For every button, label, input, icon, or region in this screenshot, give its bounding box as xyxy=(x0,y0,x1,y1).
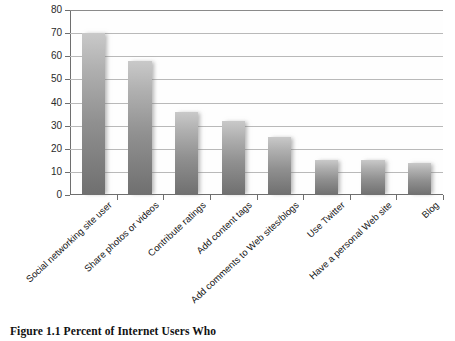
y-axis-tick-label: 10 xyxy=(51,167,62,177)
bar xyxy=(315,160,338,195)
y-axis-tick-label: 80 xyxy=(51,5,62,15)
bar xyxy=(82,33,105,195)
bar xyxy=(128,61,151,195)
bar xyxy=(268,137,291,195)
x-axis-labels: Social networking site userShare photos … xyxy=(70,196,443,306)
bar xyxy=(222,121,245,195)
y-axis-tick-label: 60 xyxy=(51,51,62,61)
bar xyxy=(408,163,431,195)
y-axis-tick-label: 20 xyxy=(51,144,62,154)
bar xyxy=(175,112,198,195)
x-axis-label: Have a personal Web site xyxy=(308,200,395,282)
bar-chart: 80706050403020100 xyxy=(70,10,443,195)
x-axis-label: Blog xyxy=(420,200,441,221)
y-axis-tick-label: 0 xyxy=(56,190,62,200)
figure-container: 80706050403020100 Social networking site… xyxy=(0,0,455,341)
y-axis-tick-label: 40 xyxy=(51,98,62,108)
x-axis-tick xyxy=(443,195,444,200)
y-axis-tick-label: 50 xyxy=(51,74,62,84)
bars-layer xyxy=(70,10,443,195)
bar xyxy=(361,160,384,195)
y-axis-tick-label: 30 xyxy=(51,121,62,131)
figure-caption: Figure 1.1 Percent of Internet Users Who xyxy=(10,325,216,337)
x-axis-label: Use Twitter xyxy=(306,200,348,240)
y-axis-tick-label: 70 xyxy=(51,28,62,38)
x-axis-label: Social networking site user xyxy=(25,200,115,285)
